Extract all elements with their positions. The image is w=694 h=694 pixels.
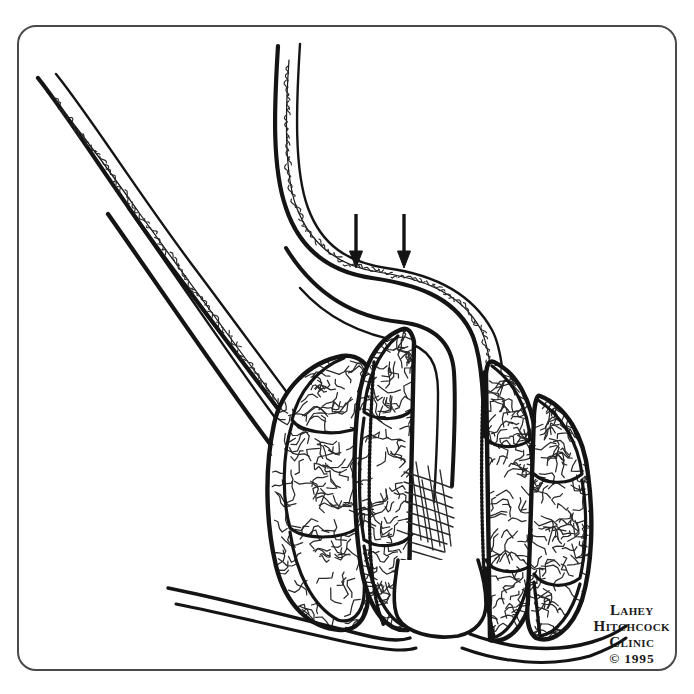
anal-verge-base: [394, 560, 486, 637]
medical-illustration-canvas: [0, 0, 694, 694]
credit-line-1: Lahey: [594, 603, 670, 619]
credit-year: © 1995: [594, 652, 670, 666]
illustration-page: Lahey Hitchcock Clinic © 1995: [0, 0, 694, 694]
credit-line-2: Hitchcock: [594, 619, 670, 635]
publisher-credit: Lahey Hitchcock Clinic © 1995: [594, 603, 670, 666]
credit-line-3: Clinic: [594, 635, 670, 651]
